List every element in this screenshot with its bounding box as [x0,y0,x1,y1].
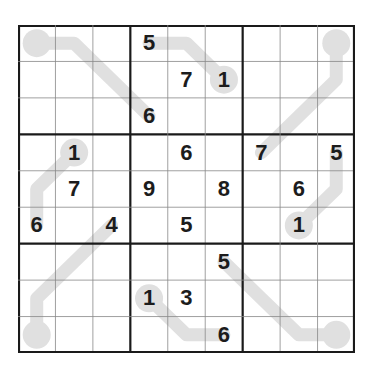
cell-r3c7[interactable] [280,134,317,170]
cell-r3c1[interactable]: 1 [55,134,92,170]
cell-r5c3[interactable] [130,207,167,243]
cell-r3c3[interactable] [130,134,167,170]
cell-r4c4[interactable] [168,171,205,207]
cell-r4c5[interactable]: 8 [205,171,242,207]
cell-r7c8[interactable] [318,280,355,316]
cell-r5c0[interactable]: 6 [18,207,55,243]
cell-r7c6[interactable] [243,280,280,316]
cell-r7c4[interactable]: 3 [168,280,205,316]
cell-r7c1[interactable] [55,280,92,316]
cell-r8c6[interactable] [243,317,280,353]
cell-r2c3[interactable]: 6 [130,98,167,134]
cell-r2c1[interactable] [55,98,92,134]
cell-r7c3[interactable]: 1 [130,280,167,316]
cell-r4c1[interactable]: 7 [55,171,92,207]
cell-r2c7[interactable] [280,98,317,134]
cell-r1c5[interactable]: 1 [205,61,242,97]
cell-r6c3[interactable] [130,244,167,280]
cell-r0c6[interactable] [243,25,280,61]
cell-r5c4[interactable]: 5 [168,207,205,243]
cell-r2c8[interactable] [318,98,355,134]
cell-r0c8[interactable] [318,25,355,61]
cell-r0c2[interactable] [93,25,130,61]
cell-r6c5[interactable]: 5 [205,244,242,280]
cell-r6c8[interactable] [318,244,355,280]
cell-r8c1[interactable] [55,317,92,353]
cell-r1c4[interactable]: 7 [168,61,205,97]
cell-r8c4[interactable] [168,317,205,353]
cell-r8c2[interactable] [93,317,130,353]
cell-r1c2[interactable] [93,61,130,97]
cell-r3c6[interactable]: 7 [243,134,280,170]
cell-r0c3[interactable]: 5 [130,25,167,61]
cell-r8c0[interactable] [18,317,55,353]
cell-r8c5[interactable]: 6 [205,317,242,353]
cell-r7c7[interactable] [280,280,317,316]
cell-r5c6[interactable] [243,207,280,243]
cell-r5c5[interactable] [205,207,242,243]
cell-r3c8[interactable]: 5 [318,134,355,170]
cell-r3c4[interactable]: 6 [168,134,205,170]
cell-r3c0[interactable] [18,134,55,170]
cell-r2c0[interactable] [18,98,55,134]
cell-r5c2[interactable]: 4 [93,207,130,243]
cell-r0c1[interactable] [55,25,92,61]
cell-r1c7[interactable] [280,61,317,97]
cell-r0c4[interactable] [168,25,205,61]
cell-r0c5[interactable] [205,25,242,61]
cell-r6c6[interactable] [243,244,280,280]
cell-r7c2[interactable] [93,280,130,316]
cell-r4c7[interactable]: 6 [280,171,317,207]
cell-r4c8[interactable] [318,171,355,207]
cell-r5c7[interactable]: 1 [280,207,317,243]
cell-r6c4[interactable] [168,244,205,280]
cell-r2c4[interactable] [168,98,205,134]
cell-r2c5[interactable] [205,98,242,134]
cell-r2c2[interactable] [93,98,130,134]
cell-r0c7[interactable] [280,25,317,61]
cell-r6c0[interactable] [18,244,55,280]
cell-r1c1[interactable] [55,61,92,97]
cell-r6c2[interactable] [93,244,130,280]
cell-r4c6[interactable] [243,171,280,207]
cell-r7c5[interactable] [205,280,242,316]
sudoku-board: 57161675798664515136 [18,25,355,353]
cell-r8c7[interactable] [280,317,317,353]
cell-r7c0[interactable] [18,280,55,316]
cell-r6c7[interactable] [280,244,317,280]
cell-r6c1[interactable] [55,244,92,280]
cell-r1c0[interactable] [18,61,55,97]
cell-r1c6[interactable] [243,61,280,97]
cell-r1c3[interactable] [130,61,167,97]
cell-r5c8[interactable] [318,207,355,243]
cell-r1c8[interactable] [318,61,355,97]
cell-r3c2[interactable] [93,134,130,170]
cell-r8c8[interactable] [318,317,355,353]
cell-r0c0[interactable] [18,25,55,61]
cell-r5c1[interactable] [55,207,92,243]
cell-r3c5[interactable] [205,134,242,170]
cell-r2c6[interactable] [243,98,280,134]
cell-r4c2[interactable] [93,171,130,207]
cell-r4c3[interactable]: 9 [130,171,167,207]
cell-r8c3[interactable] [130,317,167,353]
cell-r4c0[interactable] [18,171,55,207]
